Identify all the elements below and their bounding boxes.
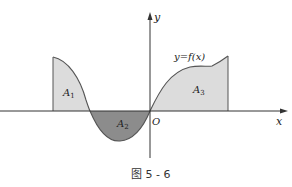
origin-label: O [152, 116, 160, 127]
y-axis-label: y [153, 11, 161, 24]
x-axis-arrow-icon [280, 109, 288, 114]
region-a1 [53, 57, 90, 111]
y-axis-arrow-icon [148, 12, 153, 20]
figure-caption: 图 5 - 6 [131, 168, 170, 181]
x-axis-label: x [276, 115, 283, 128]
curve-label: y=f(x) [173, 51, 205, 62]
area-diagram: y x O y=f(x) A1 A2 A3 图 5 - 6 [0, 0, 292, 187]
